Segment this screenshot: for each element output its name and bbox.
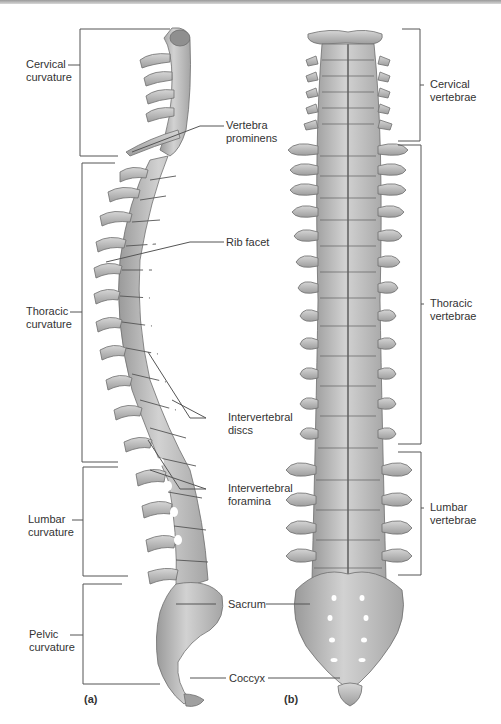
label-line-1: Intervertebral bbox=[228, 411, 293, 424]
label-lumbar-vertebrae: Lumbar vertebrae bbox=[430, 501, 476, 527]
label-line-1: Thoracic bbox=[430, 297, 476, 310]
label-rib-facet: Rib facet bbox=[226, 236, 269, 249]
label-line-2: curvature bbox=[26, 71, 72, 84]
label-pelvic-curvature: Pelvic curvature bbox=[29, 628, 75, 654]
label-thoracic-curvature: Thoracic curvature bbox=[26, 305, 72, 331]
label-vertebra-prominens: Vertebra prominens bbox=[226, 119, 277, 145]
label-line-1: Intervertebral bbox=[228, 482, 293, 495]
label-line-1: Thoracic bbox=[26, 305, 72, 318]
label-line-1: Cervical bbox=[430, 78, 476, 91]
posterior-spine-view bbox=[286, 30, 412, 706]
label-sacrum: Sacrum bbox=[228, 598, 266, 611]
label-line-2: curvature bbox=[29, 641, 75, 654]
label-line-1: Cervical bbox=[26, 58, 72, 71]
panel-label-b: (b) bbox=[284, 693, 298, 705]
label-thoracic-vertebrae: Thoracic vertebrae bbox=[430, 297, 476, 323]
label-line-2: foramina bbox=[228, 495, 293, 508]
label-line-2: curvature bbox=[26, 318, 72, 331]
lateral-spine-view bbox=[94, 28, 223, 707]
label-coccyx: Coccyx bbox=[229, 672, 265, 685]
label-cervical-curvature: Cervical curvature bbox=[26, 58, 72, 84]
label-line-2: discs bbox=[228, 424, 293, 437]
label-cervical-vertebrae: Cervical vertebrae bbox=[430, 78, 476, 104]
label-line-1: Vertebra bbox=[226, 119, 277, 132]
label-line-1: Lumbar bbox=[430, 501, 476, 514]
label-intervertebral-foramina: Intervertebral foramina bbox=[228, 482, 293, 508]
label-line-2: vertebrae bbox=[430, 91, 476, 104]
label-line-1: Pelvic bbox=[29, 628, 75, 641]
label-line-2: prominens bbox=[226, 132, 277, 145]
label-line-2: vertebrae bbox=[430, 310, 476, 323]
panel-label-a: (a) bbox=[84, 693, 97, 705]
label-intervertebral-discs: Intervertebral discs bbox=[228, 411, 293, 437]
label-line-2: vertebrae bbox=[430, 514, 476, 527]
label-line-1: Lumbar bbox=[28, 513, 74, 526]
spine-illustration bbox=[0, 0, 501, 724]
label-line-2: curvature bbox=[28, 526, 74, 539]
label-lumbar-curvature: Lumbar curvature bbox=[28, 513, 74, 539]
